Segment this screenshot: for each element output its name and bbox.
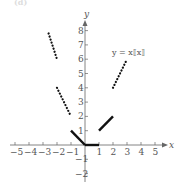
x-axis-arrow-icon <box>162 143 168 148</box>
axes <box>10 20 168 182</box>
x-tick-label: 4 <box>139 147 145 157</box>
curve-segment <box>57 88 71 117</box>
x-tick-label: −5 <box>10 147 24 157</box>
y-axis-label: y <box>83 9 90 19</box>
y-tick-label: 2 <box>78 111 84 121</box>
panel-label: (d) <box>14 0 27 7</box>
y-tick-label: −1 <box>75 154 88 164</box>
y-tick-label: 3 <box>78 97 84 107</box>
x-axis-label: x <box>169 140 174 150</box>
x-tick-label: −4 <box>24 147 38 157</box>
y-tick-label: −2 <box>75 169 88 179</box>
x-tick-label: 2 <box>111 147 117 157</box>
curve-segment <box>49 33 57 59</box>
y-tick-label: 8 <box>78 26 84 36</box>
x-tick-label: 1 <box>97 147 103 157</box>
chart: (d) −5−4−3−2−112345−2−112345678 x y y = … <box>0 0 178 188</box>
y-tick-label: 6 <box>78 54 84 64</box>
x-tick-label: 5 <box>153 147 159 157</box>
y-tick-label: 4 <box>78 83 84 93</box>
function-label: y = x⟦x⟧ <box>111 48 145 57</box>
curve-segment <box>113 59 127 88</box>
x-tick-label: −3 <box>38 147 52 157</box>
x-tick-label: 3 <box>125 147 131 157</box>
y-tick-label: 1 <box>78 126 84 136</box>
y-tick-label: 5 <box>78 69 84 79</box>
curve-segment <box>99 116 113 130</box>
y-tick-label: 7 <box>78 40 84 50</box>
x-tick-label: −2 <box>52 147 65 157</box>
